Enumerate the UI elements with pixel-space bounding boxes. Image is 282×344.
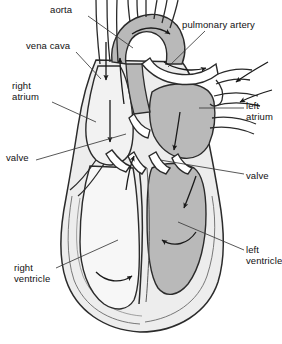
label-vena-cava: vena cava: [26, 40, 70, 51]
aortic-arch: [112, 14, 185, 64]
heart-diagram: aorta pulmonary artery vena cava right a…: [0, 0, 282, 344]
pulmonary-artery-branch-lower: [216, 79, 250, 84]
heart-body: [36, 0, 272, 332]
label-right-ventricle: right ventricle: [14, 262, 50, 284]
label-valve-left: valve: [6, 152, 29, 163]
label-right-atrium: right atrium: [12, 80, 39, 102]
arrow-pv-in-upper: [236, 62, 268, 82]
pulmonary-artery-branch: [218, 69, 252, 74]
heart-illustration: [0, 0, 282, 344]
label-left-atrium: left atrium: [246, 100, 273, 122]
label-left-ventricle: left ventricle: [246, 244, 282, 266]
label-valve-right: valve: [246, 170, 269, 181]
label-aorta: aorta: [50, 4, 72, 15]
label-pulmonary-artery: pulmonary artery: [182, 19, 255, 30]
